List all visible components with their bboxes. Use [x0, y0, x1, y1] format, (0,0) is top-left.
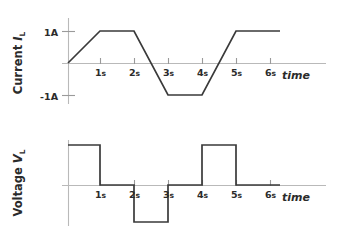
voltage-xtick-text-3: 3	[163, 189, 170, 200]
svg-text:1s: 1s	[95, 67, 107, 78]
current-xtick-text-1: 1	[95, 67, 102, 78]
voltage-waveform	[68, 145, 280, 222]
svg-text:2s: 2s	[129, 67, 141, 78]
current-yaxis-title: Current IL	[11, 32, 27, 95]
voltage-xaxis-title: time	[282, 191, 310, 204]
voltage-xtick-text-1: 1	[95, 189, 102, 200]
svg-text:4s: 4s	[197, 189, 209, 200]
current-xtick-labels: 1s 2s 3s 4s 5s 6s	[95, 67, 277, 78]
svg-text:6s: 6s	[265, 67, 277, 78]
voltage-xtick-unit-1: s	[102, 191, 107, 200]
current-xtick-unit-5: s	[238, 69, 243, 78]
voltage-xtick-unit-4: s	[204, 191, 209, 200]
voltage-xtick-unit-6: s	[272, 191, 277, 200]
voltage-yaxis-title-main: Voltage	[11, 163, 25, 216]
voltage-yaxis-title: Voltage VL	[11, 149, 27, 216]
voltage-xtick-text-2: 2	[129, 189, 136, 200]
current-xtick-unit-4: s	[204, 69, 209, 78]
current-xtick-unit-1: s	[102, 69, 107, 78]
svg-text:3s: 3s	[163, 67, 175, 78]
voltage-chart: 1s 2s 3s 4s 5s 6s time Voltage VL	[0, 120, 344, 240]
current-xtick-unit-3: s	[170, 69, 175, 78]
current-xtick-unit-2: s	[136, 69, 141, 78]
current-xtick-unit-6: s	[272, 69, 277, 78]
svg-text:5s: 5s	[231, 67, 243, 78]
current-xtick-text-2: 2	[129, 67, 136, 78]
current-chart: 1A -1A 1s 2s 3s 4s 5s 6s time	[0, 0, 344, 120]
voltage-xtick-unit-3: s	[170, 191, 175, 200]
current-ytick-label-bottom: -1A	[40, 91, 59, 102]
voltage-xtick-labels: 1s 2s 3s 4s 5s 6s	[95, 189, 277, 200]
svg-text:3s: 3s	[163, 189, 175, 200]
current-xtick-text-3: 3	[163, 67, 170, 78]
svg-text:6s: 6s	[265, 189, 277, 200]
svg-text:1s: 1s	[95, 189, 107, 200]
voltage-xtick-text-5: 5	[231, 189, 238, 200]
voltage-xtick-unit-5: s	[238, 191, 243, 200]
current-ytick-label-top: 1A	[44, 27, 59, 38]
current-xaxis-title: time	[282, 69, 310, 82]
voltage-xtick-unit-2: s	[136, 191, 141, 200]
voltage-yaxis-title-subscript: L	[18, 149, 27, 154]
current-xtick-text-5: 5	[231, 67, 238, 78]
waveform-figure: 1A -1A 1s 2s 3s 4s 5s 6s time	[0, 0, 344, 240]
current-yaxis-title-main: Current	[11, 41, 25, 94]
current-yaxis-title-subscript: L	[18, 32, 27, 37]
svg-text:4s: 4s	[197, 67, 209, 78]
svg-text:2s: 2s	[129, 189, 141, 200]
svg-text:5s: 5s	[231, 189, 243, 200]
